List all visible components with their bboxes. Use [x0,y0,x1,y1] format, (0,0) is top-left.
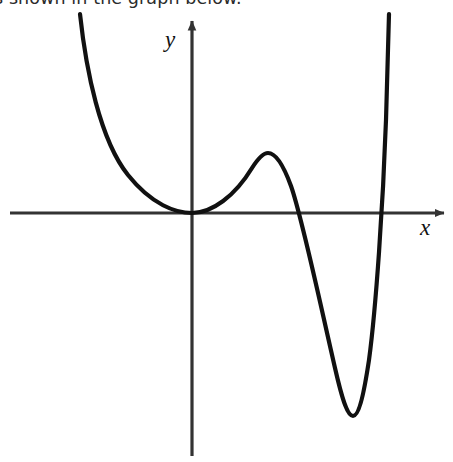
polynomial-curve [80,14,389,416]
graph-svg: y x [0,0,453,462]
y-axis-label: y [163,27,176,52]
graph-figure: y x [0,0,453,462]
screenshot-root: s shown in the graph below. y x [0,0,453,462]
x-axis-label: x [419,215,431,240]
